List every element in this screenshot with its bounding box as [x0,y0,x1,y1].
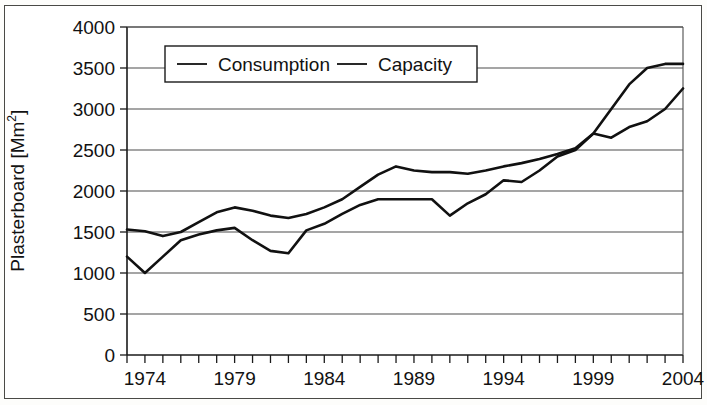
x-axis-tick-label: 1979 [213,368,255,389]
x-axis-tick-label: 1974 [124,368,167,389]
x-axis-tick-label: 1994 [483,368,526,389]
y-axis-tick-label: 4000 [73,17,115,38]
y-axis-tick-label: 2500 [73,140,115,161]
y-axis-tick-labels-group: 05001000150020002500300035004000 [73,17,115,366]
x-axis-tick-labels-group: 1974197919841989199419992004 [124,368,705,389]
x-axis-tick-label: 1989 [393,368,435,389]
legend-label: Consumption [218,54,330,75]
x-axis-tick-label: 1984 [303,368,346,389]
y-axis-tick-label: 0 [104,345,115,366]
y-axis-tick-label: 2000 [73,181,115,202]
legend-label: Capacity [378,54,452,75]
series-line-consumption [127,89,683,274]
line-chart: 05001000150020002500300035004000 1974197… [0,0,707,405]
y-axis-tick-label: 500 [83,304,115,325]
figure-container: Plasterboard [Mm2] 050010001500200025003… [0,0,707,405]
x-axis-ticks-group [127,355,683,363]
chart-legend: ConsumptionCapacity [165,46,477,82]
data-series-group [127,64,683,273]
x-axis-tick-label: 2004 [662,368,705,389]
y-axis-tick-label: 3500 [73,58,115,79]
y-axis-tick-label: 3000 [73,99,115,120]
y-axis-tick-label: 1500 [73,222,115,243]
y-axis-tick-label: 1000 [73,263,115,284]
x-axis-tick-label: 1999 [572,368,614,389]
y-axis-ticks-group [120,27,127,355]
